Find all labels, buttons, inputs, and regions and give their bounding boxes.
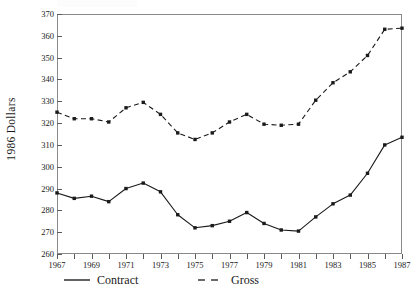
x-axis-tick-label: 1975 <box>187 261 204 270</box>
data-point-marker <box>297 122 300 125</box>
legend-line-solid-icon <box>64 275 90 285</box>
data-point-marker <box>107 120 110 123</box>
data-point-marker <box>280 228 283 231</box>
data-point-marker <box>159 113 162 116</box>
x-axis-tick-mark <box>402 254 403 259</box>
data-point-marker <box>366 54 369 57</box>
y-axis-tick-mark <box>57 167 62 168</box>
x-axis-tick-label: 1983 <box>325 261 342 270</box>
legend-label-gross: Gross <box>231 274 259 286</box>
data-point-marker <box>297 229 300 232</box>
y-axis-tick-label: 350 <box>28 53 54 62</box>
data-point-marker <box>193 226 196 229</box>
x-axis-tick-label: 1987 <box>394 261 411 270</box>
data-point-marker <box>400 136 403 139</box>
data-point-marker <box>331 81 334 84</box>
data-point-marker <box>176 131 179 134</box>
x-axis-tick-label: 1967 <box>49 261 66 270</box>
x-axis-tick-mark <box>109 254 110 259</box>
x-axis-tick-mark <box>178 254 179 259</box>
legend-item-contract: Contract <box>64 274 138 286</box>
data-point-marker <box>331 202 334 205</box>
data-point-marker <box>211 224 214 227</box>
y-axis-tick-label: 360 <box>28 32 54 41</box>
data-point-marker <box>142 181 145 184</box>
y-axis-tick-label: 300 <box>28 162 54 171</box>
x-axis-tick-mark <box>212 254 213 259</box>
x-axis-tick-mark <box>281 254 282 259</box>
y-axis-tick-mark <box>57 123 62 124</box>
data-point-marker <box>73 197 76 200</box>
series-contract <box>55 136 403 233</box>
x-axis-tick-mark <box>195 254 196 259</box>
data-point-marker <box>262 222 265 225</box>
x-axis-tick-mark <box>368 254 369 259</box>
legend-item-gross: Gross <box>198 274 259 286</box>
data-point-marker <box>314 215 317 218</box>
y-axis-tick-mark <box>57 79 62 80</box>
data-point-marker <box>349 70 352 73</box>
y-axis-tick-mark <box>57 36 62 37</box>
x-axis-tick-mark <box>316 254 317 259</box>
data-point-marker <box>107 200 110 203</box>
y-axis-tick-label: 320 <box>28 119 54 128</box>
x-axis-tick-mark <box>299 254 300 259</box>
x-axis-tick-label: 1977 <box>221 261 238 270</box>
x-axis-tick-mark <box>161 254 162 259</box>
data-point-marker <box>176 213 179 216</box>
data-point-marker <box>142 101 145 104</box>
data-point-marker <box>280 124 283 127</box>
data-point-marker <box>245 113 248 116</box>
y-axis-tick-mark <box>57 210 62 211</box>
data-point-marker <box>90 117 93 120</box>
x-axis-tick-mark <box>57 254 58 259</box>
data-point-marker <box>383 143 386 146</box>
x-axis-tick-mark <box>350 254 351 259</box>
y-axis-tick-label: 310 <box>28 141 54 150</box>
y-axis-tick-label: 260 <box>28 250 54 259</box>
data-point-marker <box>245 211 248 214</box>
data-point-marker <box>400 26 403 29</box>
y-axis-tick-labels: 260270280290300310320330340350360370 <box>26 0 54 295</box>
data-point-marker <box>211 131 214 134</box>
data-series-layer <box>57 14 402 254</box>
data-point-marker <box>55 191 58 194</box>
x-axis-tick-mark <box>74 254 75 259</box>
y-axis-tick-mark <box>57 14 62 15</box>
x-axis-tick-label: 1981 <box>290 261 307 270</box>
x-axis-tick-mark <box>247 254 248 259</box>
y-axis-tick-label: 290 <box>28 184 54 193</box>
data-point-marker <box>349 193 352 196</box>
x-axis-tick-mark <box>264 254 265 259</box>
y-axis-tick-label: 370 <box>28 10 54 19</box>
data-point-marker <box>55 110 58 113</box>
y-axis-tick-mark <box>57 189 62 190</box>
x-axis-tick-mark <box>385 254 386 259</box>
x-axis-tick-label: 1971 <box>118 261 135 270</box>
y-axis-tick-label: 280 <box>28 206 54 215</box>
data-point-marker <box>262 122 265 125</box>
y-axis-tick-label: 330 <box>28 97 54 106</box>
plot-area <box>57 14 402 254</box>
data-point-marker <box>124 187 127 190</box>
x-axis-tick-mark <box>143 254 144 259</box>
y-axis-tick-mark <box>57 101 62 102</box>
data-point-marker <box>73 117 76 120</box>
legend-line-dashed-icon <box>198 275 224 285</box>
y-axis-title-text: 1986 Dollars <box>5 97 17 160</box>
data-point-marker <box>314 98 317 101</box>
data-point-marker <box>193 138 196 141</box>
x-axis-tick-label: 1969 <box>83 261 100 270</box>
x-axis-tick-label: 1973 <box>152 261 169 270</box>
data-point-marker <box>366 172 369 175</box>
y-axis-tick-label: 340 <box>28 75 54 84</box>
data-point-marker <box>90 194 93 197</box>
series-gross <box>55 26 403 141</box>
chart-figure: 1986 Dollars 260270280290300310320330340… <box>0 0 417 295</box>
legend-label-contract: Contract <box>97 274 138 286</box>
x-axis-tick-mark <box>333 254 334 259</box>
x-axis-tick-mark <box>230 254 231 259</box>
chart-legend: Contract Gross <box>0 274 417 295</box>
y-axis-tick-mark <box>57 58 62 59</box>
top-edge-artifact <box>57 0 137 7</box>
